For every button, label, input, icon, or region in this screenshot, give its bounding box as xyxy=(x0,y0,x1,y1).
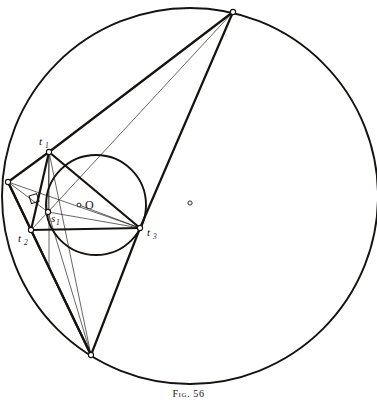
point-t1 xyxy=(46,149,51,154)
label-s1-sub: 1 xyxy=(56,218,60,227)
line-s1-to-bottom xyxy=(48,212,91,355)
label-t3: t 3 xyxy=(147,226,157,241)
point-vertex-left xyxy=(5,179,10,184)
figure-caption: Fig. 56 xyxy=(0,388,377,399)
label-t2-sub: 2 xyxy=(24,238,28,247)
label-t1-base: t xyxy=(39,135,43,147)
label-center-O: O xyxy=(85,198,94,212)
seg-top-to-t3 xyxy=(140,12,233,228)
label-t1-sub: 1 xyxy=(45,141,49,150)
seg-top-to-t1 xyxy=(49,12,233,152)
inner-circle xyxy=(46,155,146,255)
label-t1: t 1 xyxy=(39,135,49,150)
figure-container: t 1 t 2 t 3 s 1 O Fig. 56 xyxy=(0,0,377,408)
label-t3-sub: 3 xyxy=(152,232,157,241)
point-markers-group xyxy=(5,9,235,357)
point-vertex-bottom xyxy=(88,352,93,357)
point-t3 xyxy=(137,225,142,230)
thick-lines-group xyxy=(8,12,233,355)
label-t3-base: t xyxy=(147,226,151,238)
label-s1-base: s xyxy=(51,212,55,224)
point-s1 xyxy=(45,209,50,214)
seg-t3-to-bottom xyxy=(91,228,140,355)
label-s1: s 1 xyxy=(51,212,60,227)
point-inner-center-O xyxy=(77,203,81,207)
seg-t2-to-t3 xyxy=(31,228,140,230)
point-circumcenter xyxy=(188,201,192,205)
label-t2: t 2 xyxy=(18,232,28,247)
point-t2 xyxy=(28,227,33,232)
seg-left-to-bottom xyxy=(8,182,91,355)
label-t2-base: t xyxy=(18,232,22,244)
point-vertex-top xyxy=(230,9,235,14)
geometry-figure-canvas: t 1 t 2 t 3 s 1 O xyxy=(0,0,377,408)
